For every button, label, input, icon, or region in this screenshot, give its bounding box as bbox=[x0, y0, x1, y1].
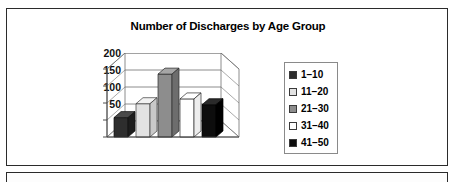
legend-label-21-30: 21–30 bbox=[301, 103, 329, 114]
legend-item-1-10: 1–10 bbox=[289, 66, 337, 83]
page-title: Number of Discharges by Age Group bbox=[7, 20, 449, 32]
legend-item-41-50: 41–50 bbox=[289, 134, 337, 151]
gridline-left-200 bbox=[107, 53, 125, 69]
gridline-depth-50 bbox=[221, 104, 239, 120]
legend-label-11-20: 11–20 bbox=[301, 86, 328, 97]
legend-swatch-icon-31-40 bbox=[289, 122, 297, 130]
figure-box: Number of Discharges by Age Group 200 15… bbox=[6, 8, 448, 166]
chart-legend: 1–10 11–20 21–30 31–40 41–50 bbox=[284, 62, 338, 154]
gridline-depth-200 bbox=[221, 53, 239, 69]
gridline-left-100 bbox=[107, 87, 125, 103]
legend-item-11-20: 11–20 bbox=[289, 83, 337, 100]
chart-plot-area: 200 150 100 50 0 bbox=[97, 53, 277, 153]
legend-swatch-icon-41-50 bbox=[289, 139, 297, 147]
bar-31-40 bbox=[180, 93, 201, 137]
screenshot-root: Number of Discharges by Age Group 200 15… bbox=[0, 0, 459, 182]
next-figure-box bbox=[6, 172, 448, 182]
legend-swatch-icon-1-10 bbox=[289, 71, 297, 79]
legend-item-31-40: 31–40 bbox=[289, 117, 337, 134]
bar-21-30 bbox=[158, 68, 179, 137]
gridline-depth-150 bbox=[221, 70, 239, 86]
legend-label-1-10: 1–10 bbox=[301, 69, 323, 80]
legend-label-31-40: 31–40 bbox=[301, 120, 329, 131]
legend-item-21-30: 21–30 bbox=[289, 100, 337, 117]
bar-1-10 bbox=[114, 112, 135, 137]
legend-swatch-icon-21-30 bbox=[289, 105, 297, 113]
bar-chart-svg bbox=[97, 53, 277, 153]
gridline-left-150 bbox=[107, 70, 125, 86]
legend-swatch-icon-11-20 bbox=[289, 88, 297, 96]
bar-11-20 bbox=[136, 98, 157, 137]
legend-label-41-50: 41–50 bbox=[301, 137, 329, 148]
gridline-depth-100 bbox=[221, 87, 239, 103]
bar-41-50 bbox=[202, 99, 223, 137]
